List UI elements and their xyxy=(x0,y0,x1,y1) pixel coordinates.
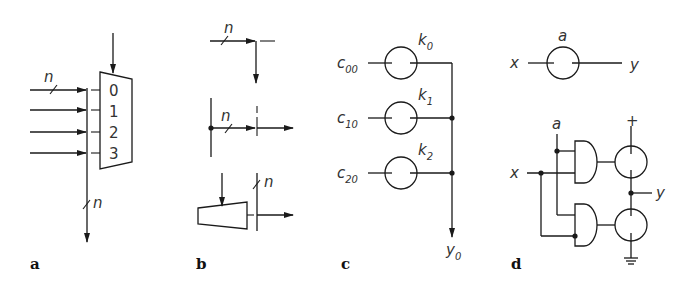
mux-input-1: 1 xyxy=(109,103,119,121)
control-label-a: a xyxy=(552,115,561,133)
mux-input-2: 2 xyxy=(109,124,119,142)
and-gate-lower xyxy=(575,204,597,246)
ground-icon xyxy=(624,258,638,264)
output-label-y: y xyxy=(655,184,666,202)
mux-input-0: 0 xyxy=(109,82,119,100)
switch-label-k2: k2 xyxy=(418,141,433,162)
supply-label: + xyxy=(626,112,639,130)
mux-input-3: 3 xyxy=(109,145,119,163)
input-label-c20: c20 xyxy=(337,164,358,185)
panel-d-switch-realization: x a y a x + y xyxy=(509,27,666,273)
input-label-c00: c00 xyxy=(337,54,358,75)
bus-width-label: n xyxy=(264,173,274,191)
bus-width-label: n xyxy=(224,19,234,37)
panel-c-switch-network: c00 k0 c10 k1 c20 k2 y0 c xyxy=(337,31,461,273)
panel-b-bus-junctions: n n n b xyxy=(196,19,293,273)
panel-a-multiplexer: n 0 1 2 3 n a xyxy=(30,33,132,273)
panel-label-a: a xyxy=(30,255,40,273)
bus-width-label: n xyxy=(221,107,231,125)
mux-block xyxy=(198,202,247,229)
diagram-figure: n 0 1 2 3 n a n n xyxy=(0,0,697,290)
input-label-x: x xyxy=(509,164,519,182)
switch-label-k0: k0 xyxy=(418,31,433,52)
bus-width-label: n xyxy=(44,68,54,86)
panel-label-d: d xyxy=(511,255,522,273)
panel-label-b: b xyxy=(196,255,207,273)
input-label-x: x xyxy=(509,54,519,72)
control-label-a: a xyxy=(558,27,567,45)
and-gate-upper xyxy=(575,141,597,183)
panel-label-c: c xyxy=(341,255,350,273)
input-label-c10: c10 xyxy=(337,109,358,130)
output-label-y0: y0 xyxy=(445,241,461,262)
switch-label-k1: k1 xyxy=(418,86,433,107)
output-label-y: y xyxy=(629,56,640,74)
bus-width-label: n xyxy=(93,194,103,212)
